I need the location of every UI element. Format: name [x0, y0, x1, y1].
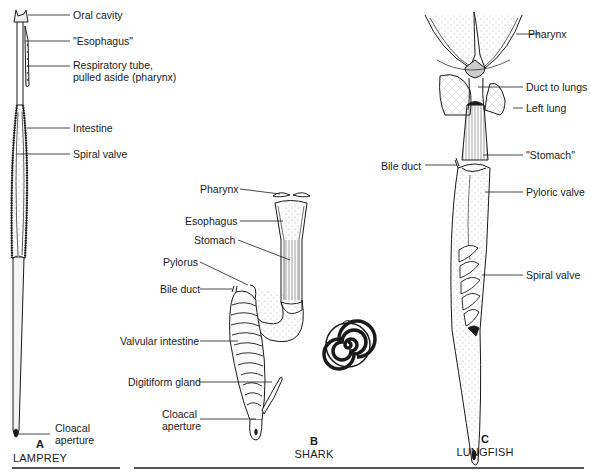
- label-shark-pharynx: Pharynx: [200, 183, 239, 195]
- label-lungfish-pyloric-valve: Pyloric valve: [526, 186, 585, 198]
- label-shark-stomach: Stomach: [194, 234, 235, 246]
- label-shark-bile-duct: Bile duct: [160, 283, 200, 295]
- label-lamprey-oral-cavity: Oral cavity: [73, 9, 123, 21]
- bottom-rule-right: [134, 467, 584, 469]
- lungfish-illustration: [425, 12, 540, 465]
- label-lamprey-spiral-valve: Spiral valve: [73, 148, 127, 160]
- label-lungfish-spiral-valve: Spiral valve: [526, 269, 580, 281]
- label-lungfish-left-lung: Left lung: [526, 102, 566, 114]
- label-lamprey-esophagus: "Esophagus": [73, 35, 133, 47]
- panel-name-shark: SHARK: [274, 448, 354, 460]
- label-lamprey-intestine: Intestine: [73, 122, 113, 134]
- label-shark-cloacal-line2: aperture: [162, 420, 201, 432]
- panel-name-lungfish: LUNGFISH: [445, 446, 525, 458]
- label-lungfish-stomach: "Stomach": [526, 149, 575, 161]
- bottom-rule-left: [12, 467, 120, 469]
- label-shark-pylorus: Pylorus: [163, 256, 198, 268]
- label-shark-cloacal-line1: Cloacal: [162, 408, 197, 420]
- label-lungfish-bile-duct: Bile duct: [381, 160, 421, 172]
- panel-letter-c: C: [445, 433, 525, 445]
- panel-letter-b: B: [274, 435, 354, 447]
- label-lamprey-cloacal-line1: Cloacal: [55, 422, 90, 434]
- panel-name-lamprey: LAMPREY: [0, 452, 80, 464]
- label-shark-digitiform-gland: Digitiform gland: [128, 376, 201, 388]
- panel-letter-a: A: [0, 438, 80, 450]
- label-lamprey-respiratory-tube-line1: Respiratory tube,: [73, 59, 153, 71]
- label-shark-valvular-intestine: Valvular intestine: [120, 335, 199, 347]
- label-shark-esophagus: Esophagus: [185, 215, 238, 227]
- digestive-tract-comparison-figure: Oral cavity "Esophagus" Respiratory tube…: [0, 0, 591, 474]
- label-lungfish-pharynx: Pharynx: [528, 28, 567, 40]
- label-lamprey-respiratory-tube-line2: pulled aside (pharynx): [73, 71, 176, 83]
- label-lungfish-duct-to-lungs: Duct to lungs: [526, 81, 587, 93]
- lamprey-illustration: [12, 10, 70, 437]
- spiral-cross-section: [324, 321, 375, 370]
